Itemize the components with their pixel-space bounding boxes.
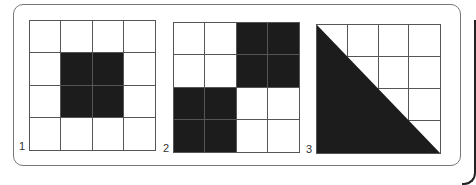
grid-figure-3 — [316, 24, 441, 154]
grid-cell — [268, 88, 299, 120]
grid-cell — [61, 21, 92, 53]
grid-cell — [30, 21, 61, 53]
grid-cell — [268, 55, 299, 87]
grid-cell — [124, 53, 155, 85]
figure-label-1: 1 — [19, 140, 25, 152]
grid-cell — [124, 86, 155, 118]
grid-figure-2 — [173, 22, 300, 153]
grid-cell — [174, 55, 205, 87]
grid-cell — [30, 86, 61, 118]
triangle-shape — [317, 25, 440, 153]
grid-cell — [205, 88, 236, 120]
grid-figure-1 — [29, 20, 156, 151]
grid-cell — [93, 21, 124, 53]
grid-cell — [205, 120, 236, 152]
figure-label-2: 2 — [163, 142, 169, 154]
grid-cell — [237, 55, 268, 87]
grid-cell — [61, 53, 92, 85]
grid-cell — [205, 23, 236, 55]
grid-cell — [93, 118, 124, 150]
grid-cell — [205, 55, 236, 87]
grid-cell — [237, 120, 268, 152]
grid-cell — [61, 86, 92, 118]
grid-cell — [30, 118, 61, 150]
figure-label-3: 3 — [306, 143, 312, 155]
grid-cell — [174, 120, 205, 152]
grid-cell — [61, 118, 92, 150]
grid-cell — [124, 21, 155, 53]
grid-cell — [237, 88, 268, 120]
grid-cell — [93, 86, 124, 118]
grid-cell — [124, 118, 155, 150]
grid-cell — [174, 23, 205, 55]
grid-cell — [268, 23, 299, 55]
grid-cell — [93, 53, 124, 85]
grid-cell — [237, 23, 268, 55]
grid-cell — [174, 88, 205, 120]
grid-cell — [268, 120, 299, 152]
grid-cell — [30, 53, 61, 85]
outer-edge — [462, 20, 476, 185]
